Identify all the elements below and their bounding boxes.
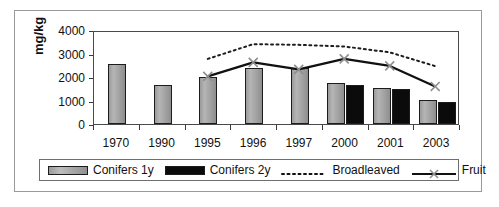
y-tick-label: 1000: [41, 96, 85, 108]
y-tick-label: 0: [41, 119, 85, 131]
plot-area: [93, 31, 459, 125]
x-tick-mark: [93, 125, 94, 130]
x-tick-label: 1996: [227, 137, 279, 149]
bar-conifers-2y-2001: [392, 89, 410, 124]
legend-item-fruit[interactable]: Fruit: [411, 163, 486, 177]
bar-conifers-2y-2000: [346, 85, 364, 124]
bar-conifers-1y-2001: [373, 88, 391, 124]
dotted-line-swatch-icon: [281, 165, 327, 175]
bar-conifers-1y-1970: [108, 64, 126, 124]
x-tick-label: 1970: [90, 137, 142, 149]
x-tick-mark: [185, 125, 186, 130]
x-tick-mark: [230, 125, 231, 130]
x-tick-label: 1995: [181, 137, 233, 149]
y-tick-label: 4000: [41, 25, 85, 37]
bar-conifers-1y-1997: [291, 68, 309, 124]
black-bar-swatch-icon: [165, 166, 205, 175]
legend-label: Conifers 1y: [93, 163, 154, 177]
x-tick-mark: [368, 125, 369, 130]
bar-conifers-1y-1996: [245, 68, 263, 124]
legend-item-broadleaved[interactable]: Broadleaved: [281, 163, 399, 177]
x-tick-label: 1997: [273, 137, 325, 149]
x-tick-mark: [322, 125, 323, 130]
bar-conifers-2y-2003: [438, 102, 456, 124]
legend-label: Fruit: [462, 163, 486, 177]
x-tick-mark: [413, 125, 414, 130]
x-tick-label: 2000: [319, 137, 371, 149]
chart-legend: Conifers 1yConifers 2yBroadleavedFruit: [39, 159, 459, 181]
bar-conifers-1y-1990: [154, 85, 172, 124]
bar-conifers-1y-2000: [327, 83, 345, 124]
x-tick-label: 1990: [136, 137, 188, 149]
bar-conifers-1y-1995: [199, 77, 217, 124]
legend-label: Conifers 2y: [210, 163, 271, 177]
solid-line-x-marker-swatch-icon: [411, 165, 457, 175]
x-tick-mark: [459, 125, 460, 130]
chart-figure: mg/kg 01000200030004000 1970199019951996…: [14, 10, 482, 192]
y-tick-label: 2000: [41, 72, 85, 84]
legend-label: Broadleaved: [332, 163, 399, 177]
x-tick-label: 2003: [410, 137, 462, 149]
x-tick-mark: [276, 125, 277, 130]
legend-item-conifers-2y[interactable]: Conifers 2y: [165, 163, 271, 177]
x-tick-mark: [139, 125, 140, 130]
x-tick-label: 2001: [364, 137, 416, 149]
legend-item-conifers-1y[interactable]: Conifers 1y: [48, 163, 154, 177]
y-tick-label: 3000: [41, 49, 85, 61]
bar-conifers-1y-2003: [419, 100, 437, 124]
bars-layer: [94, 32, 458, 124]
gray-bar-swatch-icon: [48, 166, 88, 175]
